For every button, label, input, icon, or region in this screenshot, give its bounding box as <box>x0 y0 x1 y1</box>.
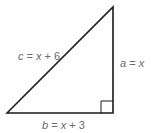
right-angle-marker <box>101 101 113 113</box>
base-label: b = x + 3 <box>42 119 85 131</box>
right-triangle-diagram: c = x + 6 a = x b = x + 3 <box>0 0 151 133</box>
hypotenuse-label: c = x + 6 <box>18 50 60 62</box>
vertical-side-label: a = x <box>120 57 145 69</box>
